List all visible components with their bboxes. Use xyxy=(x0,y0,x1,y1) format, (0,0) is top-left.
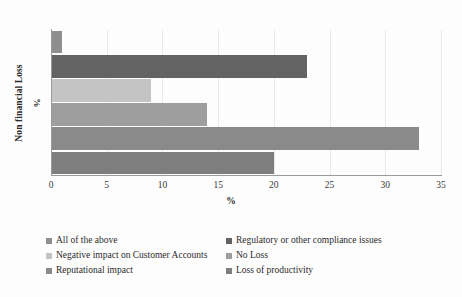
y-axis-unit: % xyxy=(28,30,44,176)
x-axis-ticks: 05101520253035 xyxy=(0,180,462,196)
x-tick-label: 15 xyxy=(213,180,223,190)
legend-label: Negative impact on Customer Accounts xyxy=(56,250,207,261)
x-tick-label: 10 xyxy=(158,180,168,190)
legend-swatch-icon xyxy=(46,268,52,274)
x-axis-line xyxy=(51,175,442,176)
gridline xyxy=(330,30,331,175)
bar xyxy=(51,79,151,102)
legend-item[interactable]: Negative impact on Customer Accounts xyxy=(46,250,226,261)
x-tick-label: 30 xyxy=(381,180,391,190)
bar-chart: Non financial Loss % 05101520253035 % Al… xyxy=(0,0,462,297)
legend-item[interactable]: No Loss xyxy=(226,250,450,261)
legend-item[interactable]: Reputational impact xyxy=(46,265,226,276)
legend-item[interactable]: Regulatory or other compliance issues xyxy=(226,235,450,246)
bar xyxy=(51,127,419,150)
legend-label: No Loss xyxy=(236,250,268,261)
legend-label: Regulatory or other compliance issues xyxy=(236,235,382,246)
bar xyxy=(51,31,62,54)
x-tick-label: 5 xyxy=(104,180,109,190)
y-axis-title-text: Non financial Loss xyxy=(14,64,24,141)
gridline xyxy=(274,30,275,175)
legend-swatch-icon xyxy=(226,253,232,259)
legend-label: Reputational impact xyxy=(56,265,133,276)
legend-item[interactable]: All of the above xyxy=(46,235,226,246)
bar xyxy=(51,103,207,126)
y-axis-unit-text: % xyxy=(31,99,41,108)
legend-swatch-icon xyxy=(226,238,232,244)
x-tick-label: 20 xyxy=(269,180,279,190)
x-tick-label: 25 xyxy=(325,180,335,190)
x-tick-label: 35 xyxy=(436,180,446,190)
legend-swatch-icon xyxy=(226,268,232,274)
x-tick-label: 0 xyxy=(49,180,54,190)
gridline xyxy=(441,30,442,175)
legend-label: Loss of productivity xyxy=(236,265,313,276)
legend-swatch-icon xyxy=(46,238,52,244)
bar xyxy=(51,55,307,78)
y-axis-title: Non financial Loss xyxy=(8,30,30,176)
legend-label: All of the above xyxy=(56,235,117,246)
plot-area xyxy=(51,30,441,175)
x-axis-title: % xyxy=(0,196,462,206)
y-axis-line xyxy=(51,29,52,176)
legend-swatch-icon xyxy=(46,253,52,259)
bar xyxy=(51,152,274,175)
gridline xyxy=(385,30,386,175)
legend-item[interactable]: Loss of productivity xyxy=(226,265,450,276)
chart-legend: All of the aboveRegulatory or other comp… xyxy=(46,233,450,278)
